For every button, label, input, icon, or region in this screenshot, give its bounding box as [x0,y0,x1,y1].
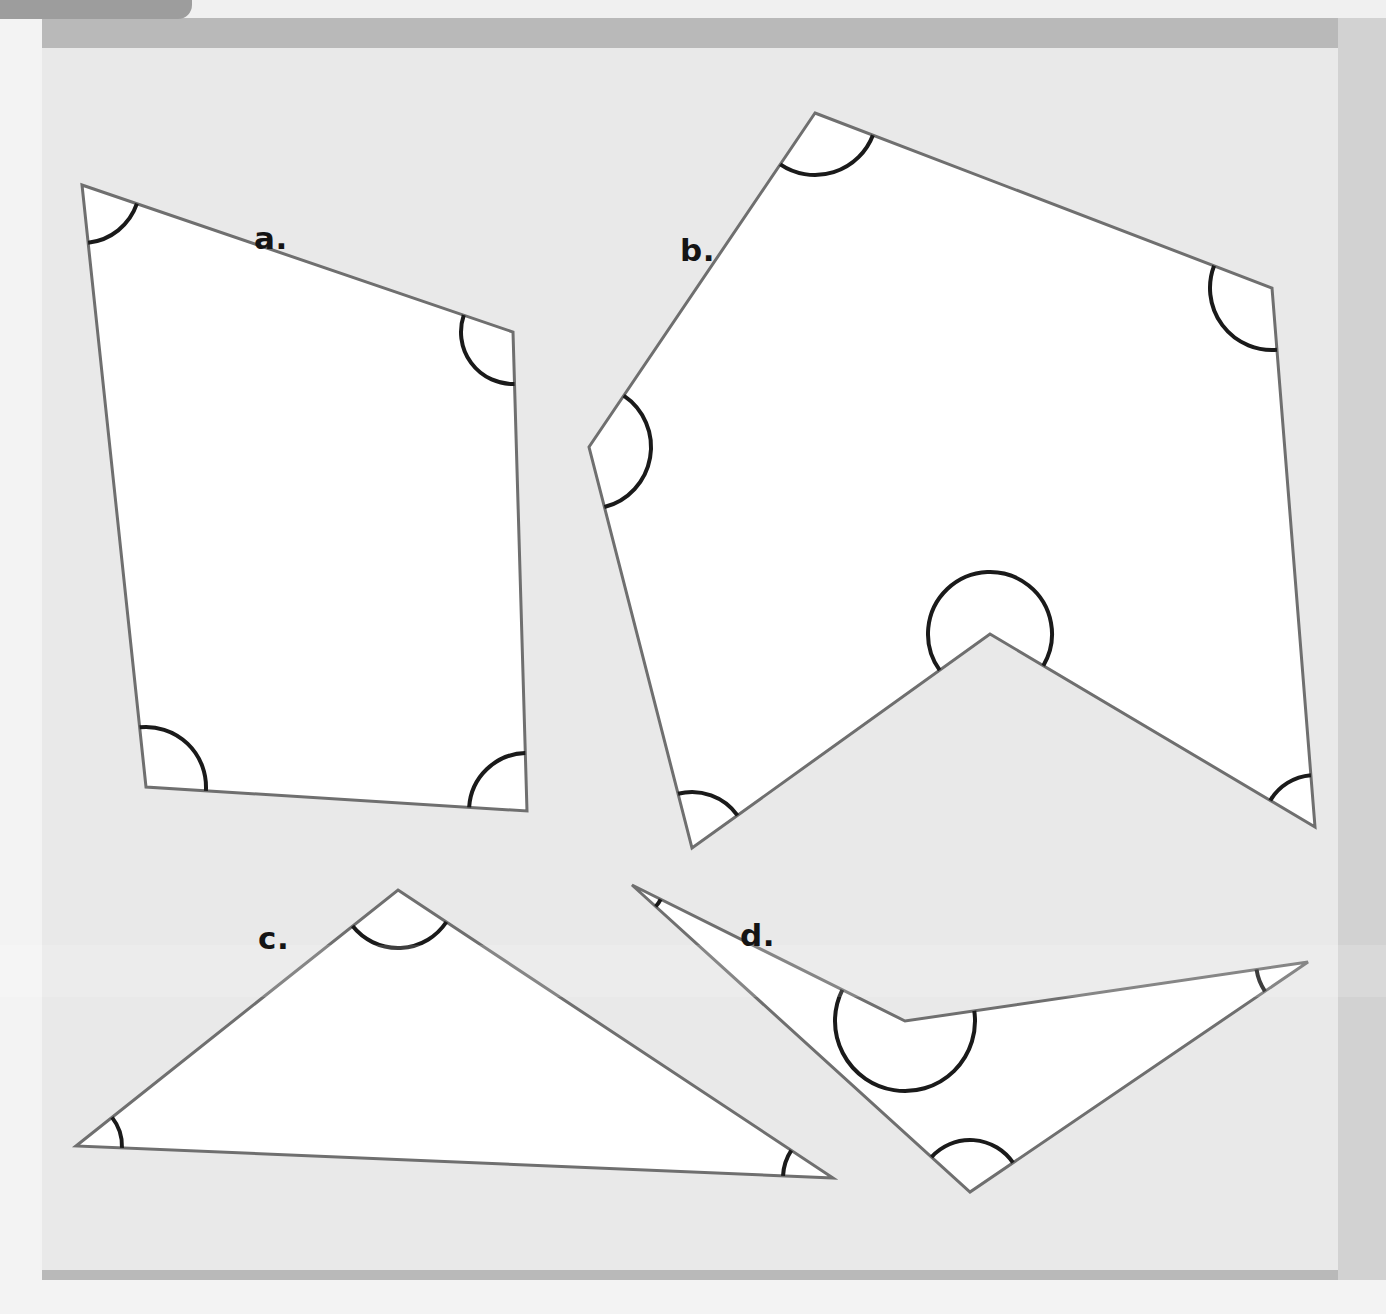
polygon-b [589,113,1315,848]
shapes-layer [0,0,1386,1314]
shape-label-b: b. [680,232,715,268]
shape-label-a: a. [254,220,288,256]
polygon-a [82,185,527,811]
shape-label-c: c. [258,920,289,956]
worksheet-page: a. b. c. d. [0,0,1386,1314]
polygon-group [76,113,1315,1192]
shape-label-d: d. [740,917,775,953]
